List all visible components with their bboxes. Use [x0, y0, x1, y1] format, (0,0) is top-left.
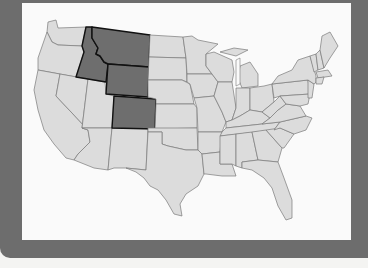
state-new-mexico[interactable] [108, 128, 148, 170]
state-mississippi[interactable] [220, 134, 236, 166]
us-map [0, 0, 368, 268]
state-colorado[interactable] [112, 96, 156, 129]
state-maine[interactable] [320, 32, 338, 68]
state-arkansas[interactable] [198, 132, 222, 154]
lake-michigan [236, 58, 240, 86]
state-florida[interactable] [242, 160, 292, 220]
state-north-dakota[interactable] [149, 35, 186, 58]
state-south-dakota[interactable] [148, 57, 187, 82]
state-kansas[interactable] [155, 104, 197, 129]
state-wyoming[interactable] [106, 64, 149, 97]
state-connecticut[interactable] [316, 77, 324, 84]
state-new-york[interactable] [272, 56, 316, 84]
